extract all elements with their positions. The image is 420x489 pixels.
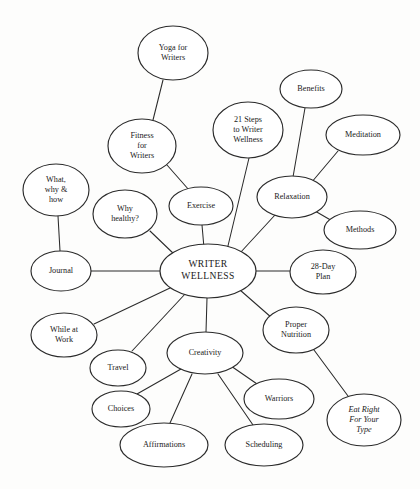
node-proper-nutrition[interactable]: ProperNutrition [263, 307, 329, 353]
node-label-exercise: Exercise [187, 201, 216, 210]
node-eat-right-for-your-type[interactable]: Eat RightFor YourType [327, 394, 401, 446]
node-writer-wellness[interactable]: WRITERWELLNESS [160, 244, 256, 298]
node-travel[interactable]: Travel [90, 350, 146, 386]
node-label-methods: Methods [346, 225, 375, 234]
mindmap-diagram: WRITERWELLNESSYoga forWritersFitnessforW… [0, 0, 420, 489]
node-label-affirmations: Affirmations [143, 440, 185, 449]
node-while-at-work[interactable]: While atWork [31, 313, 97, 357]
node-meditation[interactable]: Meditation [326, 115, 400, 155]
node-choices[interactable]: Choices [92, 391, 150, 427]
node-methods[interactable]: Methods [324, 211, 396, 249]
node-label-benefits: Benefits [297, 84, 324, 93]
node-label-choices: Choices [108, 404, 134, 413]
node-affirmations[interactable]: Affirmations [120, 423, 208, 467]
node-yoga-for-writers[interactable]: Yoga forWriters [138, 26, 208, 80]
node-label-twenty-one-steps-to-writer-wellness: 21 Stepsto WriterWellness [233, 115, 263, 144]
node-creativity[interactable]: Creativity [167, 332, 243, 374]
node-exercise[interactable]: Exercise [169, 187, 233, 225]
node-label-journal: Journal [49, 266, 74, 275]
node-scheduling[interactable]: Scheduling [225, 424, 303, 466]
node-warriors[interactable]: Warriors [244, 379, 314, 419]
node-label-writer-wellness: WRITERWELLNESS [181, 258, 234, 281]
node-label-travel: Travel [107, 363, 129, 372]
node-label-warriors: Warriors [265, 394, 293, 403]
node-twenty-eight-day-plan[interactable]: 28-DayPlan [290, 250, 356, 294]
node-label-relaxation: Relaxation [274, 192, 309, 201]
node-benefits[interactable]: Benefits [280, 70, 342, 108]
node-label-proper-nutrition: ProperNutrition [281, 320, 311, 339]
mindmap-canvas: WRITERWELLNESSYoga forWritersFitnessforW… [0, 0, 420, 489]
node-label-yoga-for-writers: Yoga forWriters [159, 43, 188, 62]
node-twenty-one-steps-to-writer-wellness[interactable]: 21 Stepsto WriterWellness [213, 102, 283, 158]
node-journal[interactable]: Journal [31, 251, 91, 291]
node-fitness-for-writers[interactable]: FitnessforWriters [108, 119, 176, 173]
node-what-why-and-how[interactable]: What,why &how [23, 164, 89, 216]
node-label-creativity: Creativity [189, 348, 223, 357]
node-label-scheduling: Scheduling [246, 440, 283, 449]
node-relaxation[interactable]: Relaxation [257, 176, 327, 218]
node-label-meditation: Meditation [345, 130, 381, 139]
node-why-healthy[interactable]: Whyhealthy? [93, 190, 157, 238]
